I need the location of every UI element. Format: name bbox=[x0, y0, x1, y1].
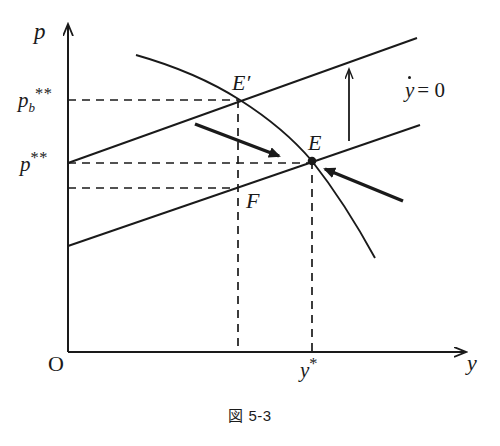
tick-pb-base: p bbox=[18, 88, 29, 112]
ydot-equals-zero: = 0 bbox=[417, 78, 445, 102]
arrow-toward-e-from-upper-left bbox=[195, 124, 279, 156]
axis-lines bbox=[68, 26, 464, 352]
dashed-guides bbox=[68, 100, 312, 352]
tick-p-base: p bbox=[20, 152, 31, 176]
tick-label-pb-star-star: pb** bbox=[18, 86, 52, 114]
curve-label-ydot-zero: y= 0 bbox=[405, 80, 445, 101]
dot-accent-icon bbox=[408, 76, 411, 79]
tick-y-base: y bbox=[300, 358, 309, 382]
ydot-variable-wrap: y bbox=[405, 80, 414, 101]
y-axis-label: p bbox=[34, 20, 46, 43]
tick-label-y-star: y* bbox=[300, 356, 318, 381]
point-label-e: E bbox=[308, 132, 321, 154]
tick-y-superscript: * bbox=[309, 354, 318, 373]
origin-label: O bbox=[48, 353, 64, 375]
point-label-f: F bbox=[246, 190, 259, 212]
figure-container: p y O pb** p** y* E′ E F y= 0 図 5-3 bbox=[0, 0, 500, 446]
figure-caption: 図 5-3 bbox=[0, 404, 500, 425]
equilibrium-point-e bbox=[308, 157, 317, 166]
ydot-variable: y bbox=[405, 78, 414, 102]
point-label-e-prime: E′ bbox=[232, 72, 250, 94]
x-axis-label: y bbox=[467, 352, 477, 374]
tick-p-superscript: ** bbox=[31, 148, 48, 167]
tick-label-p-star-star: p** bbox=[20, 150, 48, 175]
downward-curve bbox=[136, 55, 375, 258]
tick-pb-superscript: ** bbox=[35, 84, 52, 103]
